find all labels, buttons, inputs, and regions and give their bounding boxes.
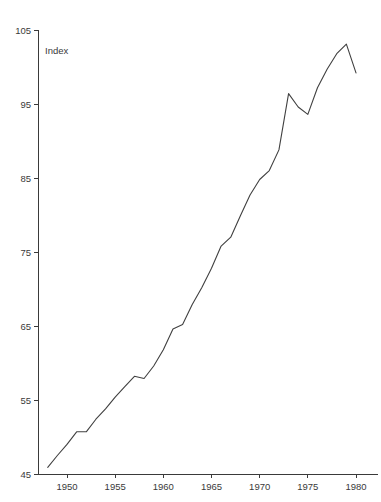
chart-container: 455565758595105 195019551960196519701975… <box>0 0 381 502</box>
x-tick-label: 1960 <box>153 481 174 492</box>
x-tick-label: 1955 <box>105 481 126 492</box>
y-tick-label: 105 <box>15 25 31 36</box>
index-annotation-label: Index <box>45 45 68 56</box>
x-tick-label: 1950 <box>56 481 77 492</box>
index-line-chart: 455565758595105 195019551960196519701975… <box>0 0 381 502</box>
y-tick-label: 85 <box>20 173 31 184</box>
y-tick-label: 45 <box>20 469 31 480</box>
x-tick-label: 1975 <box>297 481 318 492</box>
y-tick-label: 55 <box>20 395 31 406</box>
x-tick-label: 1970 <box>249 481 270 492</box>
y-tick-label: 75 <box>20 247 31 258</box>
x-tick-label: 1980 <box>345 481 366 492</box>
y-tick-label: 65 <box>20 321 31 332</box>
y-tick-label: 95 <box>20 99 31 110</box>
x-tick-label: 1965 <box>201 481 222 492</box>
